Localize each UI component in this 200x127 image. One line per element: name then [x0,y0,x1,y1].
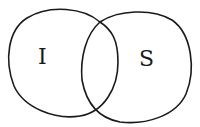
venn-diagram: I S [0,0,200,127]
set-circle-s [82,12,192,123]
set-circle-i [9,9,118,116]
set-label-s: S [139,46,154,71]
set-label-i: I [38,44,47,69]
